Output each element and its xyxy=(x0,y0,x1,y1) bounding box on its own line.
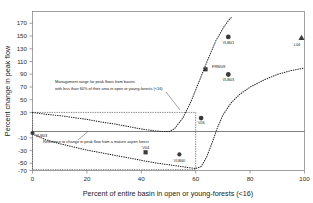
y-tick-label-neg50: -50 xyxy=(18,159,28,166)
data-point-label: FRW09 xyxy=(212,64,225,69)
data-point-marker[interactable] xyxy=(203,67,207,71)
y-tick-label-neg30: -30 xyxy=(18,147,28,154)
data-point-label: VLB03 xyxy=(36,133,48,138)
data-point-marker[interactable] xyxy=(226,72,231,77)
x-tick-label-80: 80 xyxy=(247,175,254,182)
data-point-marker[interactable] xyxy=(177,152,181,156)
data-point-marker[interactable] xyxy=(144,150,148,154)
y-tick-label-170: 170 xyxy=(17,19,28,26)
data-point-label: VLB60 xyxy=(174,158,187,163)
y-tick-label-90: 90 xyxy=(20,70,27,77)
reference-line-annotation: Reference to change in peak flow from a … xyxy=(43,139,149,144)
x-tick-label-100: 100 xyxy=(299,175,310,182)
chart-canvas: 170 150 130 110 90 70 50 30 -10 -30 -50 … xyxy=(0,0,313,203)
data-point-marker[interactable] xyxy=(30,131,34,135)
data-point-label: L04 xyxy=(294,42,301,47)
data-point-label: V04 xyxy=(142,145,150,150)
upper-envelope-curve xyxy=(33,17,233,132)
data-point-label: VLB03 xyxy=(222,77,234,82)
y-tick-label-neg70: -70 xyxy=(18,167,28,174)
y-tick-label-50: 50 xyxy=(20,96,27,103)
y-tick-label-130: 130 xyxy=(17,45,28,52)
x-tick-label-20: 20 xyxy=(83,175,90,182)
y-tick-label-30: 30 xyxy=(20,109,27,116)
data-point-label: VLB01 xyxy=(222,40,234,45)
x-tick-label-40: 40 xyxy=(138,175,145,182)
x-tick-label-0: 0 xyxy=(31,175,35,182)
management-range-annotation-line1: Management range for peak flows from bas… xyxy=(55,79,135,84)
y-axis-title: Percent change in peak flow xyxy=(3,45,12,136)
data-point-label: V06 xyxy=(198,120,205,125)
management-range-annotation-line2: with less than 60% of their area in open… xyxy=(55,86,163,91)
x-axis-ticks xyxy=(33,171,305,174)
y-tick-label-70: 70 xyxy=(20,83,27,90)
x-axis-title: Percent of entire basin in open or young… xyxy=(83,189,253,198)
data-point-marker[interactable] xyxy=(226,35,231,40)
y-tick-label-150: 150 xyxy=(17,32,28,39)
data-point-marker[interactable] xyxy=(299,35,305,40)
management-range-leader-line xyxy=(166,92,180,110)
plot-frame xyxy=(33,12,305,171)
y-tick-label-110: 110 xyxy=(17,58,27,65)
y-axis-ticks xyxy=(30,23,33,170)
y-tick-label-neg10: -10 xyxy=(18,134,28,141)
x-tick-label-60: 60 xyxy=(192,175,199,182)
chart-figure: 170 150 130 110 90 70 50 30 -10 -30 -50 … xyxy=(0,0,313,203)
